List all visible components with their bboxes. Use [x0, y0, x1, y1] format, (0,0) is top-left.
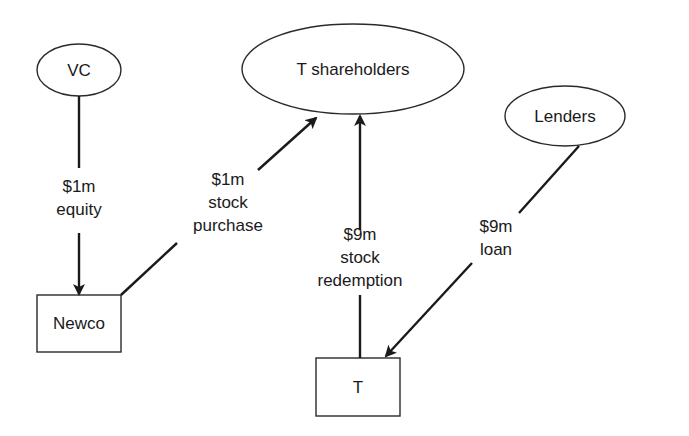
- node-newco: Newco: [37, 295, 121, 352]
- edge-newco-tsh-type-1: stock: [208, 193, 248, 212]
- t-label: T: [353, 378, 363, 397]
- edge-t-to-t-shareholders: $9m stock redemption: [317, 116, 402, 358]
- edge-newco-tsh-line-lower: [121, 243, 177, 295]
- node-t: T: [316, 358, 400, 416]
- edge-newco-tsh-arrow: [258, 118, 316, 170]
- edge-newco-to-t-shareholders: $1m stock purchase: [121, 118, 316, 295]
- edge-lenders-t-type: loan: [480, 240, 512, 259]
- node-lenders: Lenders: [505, 86, 625, 146]
- edge-newco-tsh-type-2: purchase: [193, 216, 263, 235]
- flow-of-funds-diagram: VC T shareholders Lenders Newco T $1m eq…: [0, 0, 689, 436]
- edge-t-tsh-type-2: redemption: [317, 271, 402, 290]
- edge-vc-to-newco: $1m equity: [56, 96, 102, 294]
- t-shareholders-label: T shareholders: [296, 60, 409, 79]
- edge-t-tsh-type-1: stock: [340, 248, 380, 267]
- lenders-label: Lenders: [534, 107, 595, 126]
- node-vc: VC: [37, 44, 121, 96]
- edge-vc-newco-type: equity: [56, 200, 102, 219]
- edge-t-tsh-amount: $9m: [343, 225, 376, 244]
- edge-lenders-t-line-upper: [519, 146, 579, 213]
- vc-label: VC: [67, 61, 91, 80]
- edge-lenders-t-amount: $9m: [479, 217, 512, 236]
- edge-lenders-to-t: $9m loan: [386, 146, 579, 356]
- edge-newco-tsh-amount: $1m: [211, 170, 244, 189]
- newco-label: Newco: [53, 314, 105, 333]
- edge-vc-newco-amount: $1m: [62, 177, 95, 196]
- node-t-shareholders: T shareholders: [242, 24, 464, 114]
